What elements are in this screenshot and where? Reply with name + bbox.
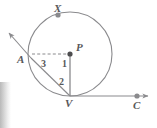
angle-label-3: 3 [41,59,46,69]
point-marker-c [134,93,139,98]
point-marker-p [67,51,72,56]
geometry-figure: X P A V C 3 1 2 [0,0,157,128]
point-label-v: V [65,98,72,109]
point-label-a: A [17,54,24,65]
point-label-p: P [76,42,83,53]
angle-label-2: 2 [59,77,64,87]
point-label-x: X [54,3,61,14]
angle-label-1: 1 [62,59,67,69]
point-label-c: C [133,100,140,111]
